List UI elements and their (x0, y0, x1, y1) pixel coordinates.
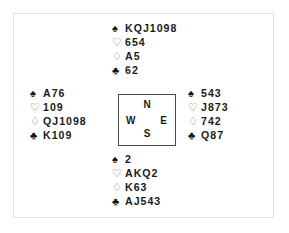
club-icon: ♣ (112, 63, 125, 77)
hand-north-diamonds: A5 (125, 49, 141, 63)
spade-icon: ♠ (30, 86, 43, 100)
hand-east-spades-row: ♠ 543 (188, 86, 231, 100)
hand-east: ♠ 543 ♡ J873 ♢ 742 ♣ Q87 (188, 86, 231, 142)
club-icon: ♣ (30, 128, 43, 142)
hand-west-diamonds-row: ♢ QJ1098 (30, 114, 91, 128)
hand-east-diamonds: 742 (201, 114, 222, 128)
bridge-deal-diagram: ♠ KQJ1098 ♡ 654 ♢ A5 ♣ 62 ♠ A76 ♡ 109 ♢ … (0, 0, 289, 233)
spade-icon: ♠ (188, 86, 201, 100)
spade-icon: ♠ (112, 21, 125, 35)
diamond-icon: ♢ (112, 180, 125, 194)
hand-south-hearts: AKQ2 (125, 166, 158, 180)
hand-west-hearts-row: ♡ 109 (30, 100, 91, 114)
hand-north-hearts: 654 (125, 35, 146, 49)
hand-west-spades-row: ♠ A76 (30, 86, 91, 100)
hand-south-hearts-row: ♡ AKQ2 (112, 166, 164, 180)
compass-label-north: N (119, 100, 175, 110)
hand-east-hearts: J873 (201, 100, 229, 114)
club-icon: ♣ (188, 128, 201, 142)
heart-icon: ♡ (30, 100, 43, 114)
hand-south: ♠ 2 ♡ AKQ2 ♢ K63 ♣ AJ543 (112, 152, 164, 208)
hand-east-clubs-row: ♣ Q87 (188, 128, 231, 142)
heart-icon: ♡ (188, 100, 201, 114)
hand-west-diamonds: QJ1098 (43, 114, 87, 128)
compass-label-south: S (119, 129, 175, 139)
compass-label-east: E (160, 116, 167, 126)
hand-east-clubs: Q87 (201, 128, 224, 142)
diamond-icon: ♢ (112, 49, 125, 63)
hand-south-diamonds-row: ♢ K63 (112, 180, 164, 194)
hand-south-diamonds: K63 (125, 180, 147, 194)
club-icon: ♣ (112, 194, 125, 208)
hand-west-clubs: K109 (43, 128, 72, 142)
hand-south-spades: 2 (125, 152, 132, 166)
spade-icon: ♠ (112, 152, 125, 166)
hand-east-hearts-row: ♡ J873 (188, 100, 231, 114)
hand-north-diamonds-row: ♢ A5 (112, 49, 182, 63)
compass-label-west: W (126, 116, 135, 126)
diamond-icon: ♢ (30, 114, 43, 128)
hand-south-clubs: AJ543 (125, 194, 161, 208)
hand-north-spades-row: ♠ KQJ1098 (112, 21, 182, 35)
hand-north: ♠ KQJ1098 ♡ 654 ♢ A5 ♣ 62 (112, 21, 182, 77)
hand-west-clubs-row: ♣ K109 (30, 128, 91, 142)
heart-icon: ♡ (112, 35, 125, 49)
diamond-icon: ♢ (188, 114, 201, 128)
hand-north-clubs-row: ♣ 62 (112, 63, 182, 77)
hand-north-spades: KQJ1098 (125, 21, 177, 35)
compass-box: N W E S (118, 94, 176, 146)
hand-north-hearts-row: ♡ 654 (112, 35, 182, 49)
hand-west: ♠ A76 ♡ 109 ♢ QJ1098 ♣ K109 (30, 86, 91, 142)
heart-icon: ♡ (112, 166, 125, 180)
hand-south-spades-row: ♠ 2 (112, 152, 164, 166)
hand-east-spades: 543 (201, 86, 222, 100)
hand-south-clubs-row: ♣ AJ543 (112, 194, 164, 208)
hand-north-clubs: 62 (125, 63, 139, 77)
hand-east-diamonds-row: ♢ 742 (188, 114, 231, 128)
hand-west-spades: A76 (43, 86, 65, 100)
hand-west-hearts: 109 (43, 100, 64, 114)
